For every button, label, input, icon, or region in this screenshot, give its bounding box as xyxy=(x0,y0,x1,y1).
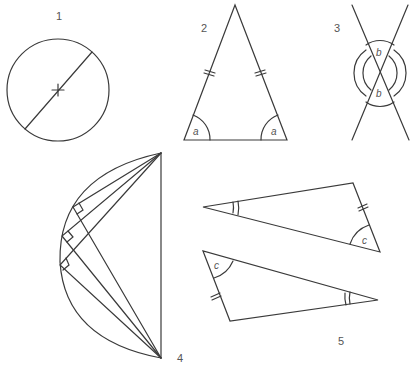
figure-1-label: 1 xyxy=(56,10,62,22)
figure-4-label: 4 xyxy=(177,352,183,364)
angle-b-bottom: b xyxy=(376,88,382,99)
figure-3-vertically-opposite-angles: 3 b b xyxy=(334,5,409,140)
angle-arc-icon xyxy=(238,201,239,215)
geometry-figures: 1 2 a a 3 b b 4 xyxy=(0,0,418,370)
angle-arc-icon xyxy=(233,202,234,213)
angle-a-right: a xyxy=(271,126,277,137)
angle-arc-icon xyxy=(389,56,397,90)
figure-3-label: 3 xyxy=(334,22,340,34)
angle-arc-icon xyxy=(366,40,394,45)
angle-c-upper: c xyxy=(362,235,367,246)
figure-5-label: 5 xyxy=(338,335,344,347)
angle-a-left: a xyxy=(193,126,199,137)
inscribed-triangle-1 xyxy=(73,153,161,358)
angle-b-top: b xyxy=(376,47,382,58)
triangle-outline xyxy=(184,5,287,140)
angle-arc-icon xyxy=(345,293,346,305)
lower-triangle xyxy=(203,251,378,321)
figure-5-congruent-triangles: 5 c c xyxy=(203,183,380,347)
angle-arc-icon xyxy=(394,50,406,96)
angle-arc-icon xyxy=(349,292,350,304)
angle-arc-icon xyxy=(363,56,371,90)
angle-arc-icon xyxy=(366,102,394,107)
figure-2-isosceles-triangle: 2 a a xyxy=(184,5,287,140)
figure-2-label: 2 xyxy=(201,22,207,34)
angle-c-lower: c xyxy=(214,260,219,271)
right-angle-mark-icon xyxy=(67,231,73,242)
angle-arc-icon xyxy=(354,50,366,96)
figure-1-circle: 1 xyxy=(7,10,109,141)
figure-4-semicircle: 4 xyxy=(60,153,183,364)
upper-triangle xyxy=(203,183,380,252)
